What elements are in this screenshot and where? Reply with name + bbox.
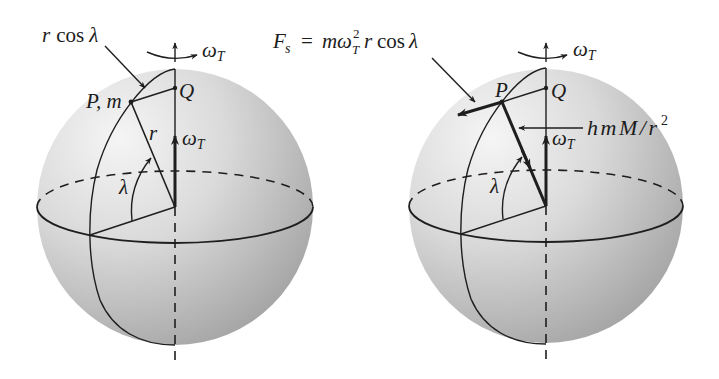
point-q-dot — [544, 86, 548, 90]
omega-symbol: ω — [182, 126, 197, 150]
omega-superscript: 2 — [353, 26, 360, 41]
centrifugal-force-label: F s = m ω 2 T r cos λ — [272, 26, 418, 57]
point-q-label: Q — [551, 79, 566, 103]
centrifugal-pointer-arrow — [432, 58, 475, 102]
point-q-dot — [173, 86, 177, 90]
radius-symbol: r — [364, 29, 373, 53]
rotation-direction-arrow — [518, 52, 567, 58]
cos-text: cos — [377, 29, 405, 53]
omega-symbol: ω — [573, 37, 588, 61]
latitude-label: λ — [489, 174, 499, 198]
left-panel: rcosλ ωT P, m Q r ωT λ — [37, 23, 313, 362]
right-panel: F s = m ω 2 T r cos λ ωT P Q hmM/r 2 ωT … — [272, 26, 683, 362]
rcos-cos: cos — [56, 23, 84, 47]
force-subscript: s — [285, 41, 291, 56]
omega-subscript: T — [567, 137, 576, 152]
earth-rotation-figure: rcosλ ωT P, m Q r ωT λ F — [0, 0, 719, 379]
radius-label: r — [149, 121, 158, 145]
rcos-label: rcosλ — [42, 23, 98, 47]
mass-symbol: m — [322, 29, 337, 53]
force-symbol: F — [272, 29, 286, 53]
omega-symbol: ω — [552, 126, 567, 150]
omega-subscript: T — [197, 137, 206, 152]
omega-subscript: T — [217, 49, 226, 64]
point-q-label: Q — [179, 79, 194, 103]
point-p-dot — [129, 100, 134, 105]
rcos-r: r — [42, 23, 51, 47]
point-p-label: P — [494, 78, 508, 102]
omega-symbol: ω — [337, 29, 352, 53]
omega-symbol: ω — [202, 38, 217, 62]
rotation-direction-arrow — [147, 52, 197, 58]
latitude-label: λ — [118, 175, 128, 199]
omega-subscript: T — [352, 42, 360, 57]
rcos-lambda: λ — [88, 23, 98, 47]
omega-top-label: ωT — [573, 37, 597, 63]
gravity-superscript: 2 — [661, 113, 668, 128]
point-p-label: P, m — [85, 89, 122, 113]
equals-sign: = — [301, 29, 313, 53]
omega-top-label: ωT — [202, 38, 226, 64]
lambda-symbol: λ — [408, 29, 418, 53]
omega-subscript: T — [588, 48, 597, 63]
